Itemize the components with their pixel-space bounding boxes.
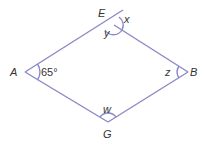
vertex-label-a: A [9, 66, 17, 78]
vertex-label-g: G [103, 128, 112, 140]
angle-arc-b [177, 66, 179, 78]
vertex-label-b: B [190, 66, 197, 78]
side-ae-extended [25, 10, 123, 72]
side-bg [108, 72, 188, 122]
angle-label-a: 65° [41, 66, 58, 78]
rhombus-diagram: E A B G 65° x y z w [0, 0, 205, 147]
angle-label-w: w [103, 103, 112, 115]
angle-label-y: y [103, 27, 111, 39]
vertex-label-e: E [98, 7, 106, 19]
angle-arc-a [38, 64, 41, 80]
angle-label-z: z [164, 66, 171, 78]
side-eb [114, 25, 188, 72]
angle-label-x: x [123, 13, 130, 25]
